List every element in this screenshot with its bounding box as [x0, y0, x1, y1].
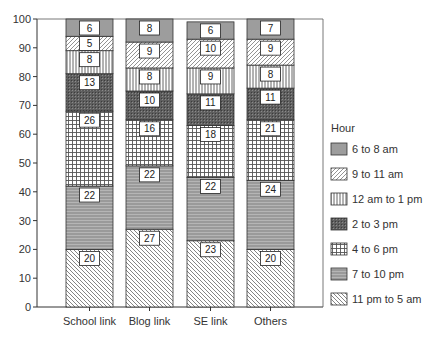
bar-others: 20242111897 [247, 19, 294, 307]
value-label: 9 [147, 46, 153, 57]
legend-item-4-to-6-pm: 4 to 6 pm [331, 243, 398, 255]
value-label: 22 [205, 181, 217, 192]
value-label: 11 [205, 97, 216, 108]
legend-label: 11 pm to 5 am [352, 293, 422, 305]
legend-swatch [331, 218, 347, 230]
value-label: 16 [144, 123, 156, 134]
value-label: 24 [265, 184, 277, 195]
legend-swatch [331, 243, 347, 255]
x-tick-label: School link [63, 315, 117, 327]
y-tick-label: 60 [19, 128, 31, 140]
legend-item-12-am-to-1-pm: 12 am to 1 pm [331, 193, 422, 205]
bar-blog-link: 27221610898 [126, 19, 173, 307]
legend-swatch [331, 143, 347, 155]
bar-se-link: 232218119106 [187, 22, 234, 307]
value-label: 8 [147, 71, 153, 82]
bars: 2022261385627221610898232218119106202421… [66, 19, 294, 307]
x-tick-label: Others [254, 315, 288, 327]
value-label: 8 [147, 23, 153, 34]
value-label: 7 [268, 23, 274, 34]
value-label: 22 [144, 169, 156, 180]
legend-item-11-pm-to-5-am: 11 pm to 5 am [331, 293, 422, 305]
legend-label: 7 to 10 pm [352, 268, 404, 280]
y-tick-label: 70 [19, 99, 31, 111]
value-label: 6 [208, 25, 214, 36]
value-label: 10 [205, 43, 217, 54]
value-label: 9 [268, 43, 274, 54]
bar-school-link: 20222613856 [66, 19, 113, 307]
value-label: 22 [84, 190, 96, 201]
value-label: 13 [84, 77, 96, 88]
y-tick-label: 40 [19, 186, 31, 198]
value-label: 20 [265, 253, 277, 264]
legend-label: 4 to 6 pm [352, 243, 398, 255]
value-label: 20 [84, 253, 96, 264]
y-tick-label: 30 [19, 215, 31, 227]
value-label: 27 [144, 233, 156, 244]
value-label: 23 [205, 244, 217, 255]
y-tick-label: 0 [25, 301, 31, 313]
legend: Hour 6 to 8 am9 to 11 am12 am to 1 pm2 t… [331, 122, 422, 305]
y-axis-ticks: 0102030405060708090100 [13, 13, 37, 313]
y-tick-label: 90 [19, 42, 31, 54]
legend-label: 6 to 8 am [352, 143, 398, 155]
y-tick-label: 10 [19, 272, 31, 284]
value-label: 6 [87, 23, 93, 34]
value-label: 5 [87, 38, 93, 49]
y-tick-label: 20 [19, 243, 31, 255]
legend-swatch [331, 268, 347, 280]
legend-item-7-to-10-pm: 7 to 10 pm [331, 268, 404, 280]
legend-label: 12 am to 1 pm [352, 193, 422, 205]
legend-title: Hour [331, 122, 355, 134]
value-label: 21 [265, 123, 277, 134]
value-label: 11 [265, 92, 276, 103]
x-tick-label: Blog link [129, 315, 171, 327]
legend-swatch [331, 193, 347, 205]
legend-label: 9 to 11 am [352, 168, 403, 180]
value-label: 10 [144, 95, 156, 106]
x-axis-labels: School linkBlog linkSE linkOthers [63, 307, 288, 327]
x-tick-label: SE link [193, 315, 228, 327]
y-tick-label: 80 [19, 71, 31, 83]
legend-label: 2 to 3 pm [352, 218, 398, 230]
y-tick-label: 100 [13, 13, 31, 25]
value-label: 18 [205, 129, 217, 140]
legend-swatch [331, 168, 347, 180]
y-tick-label: 50 [19, 157, 31, 169]
legend-item-6-to-8-am: 6 to 8 am [331, 143, 398, 155]
value-label: 8 [87, 54, 93, 65]
legend-swatch [331, 293, 347, 305]
value-label: 9 [208, 71, 214, 82]
legend-item-9-to-11-am: 9 to 11 am [331, 168, 403, 180]
value-label: 8 [268, 69, 274, 80]
value-label: 26 [84, 115, 96, 126]
legend-item-2-to-3-pm: 2 to 3 pm [331, 218, 398, 230]
stacked-bar-chart: 0102030405060708090100 20222613856272216… [0, 0, 432, 340]
